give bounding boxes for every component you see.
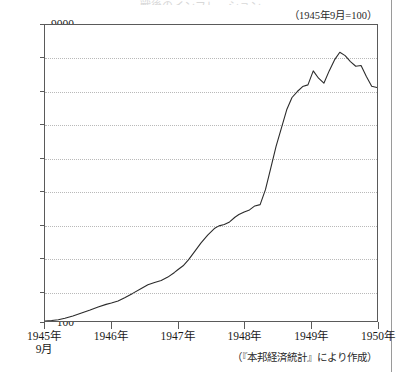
- x-axis-tick-label: 1946年: [76, 330, 146, 343]
- x-axis-tick-label: 1948年: [209, 330, 279, 343]
- x-axis-tick-label-year: 1949年: [294, 330, 328, 342]
- source-note: （『本邦経済統計』により作成）: [232, 351, 377, 364]
- x-axis-tick-label: 1947年: [143, 330, 213, 343]
- unit-base-note: （1945年9月=100）: [289, 9, 377, 22]
- x-axis-tick: [378, 322, 379, 329]
- x-axis-tick-label-year: 1947年: [161, 330, 195, 342]
- x-axis-tick-label-year: 1946年: [94, 330, 128, 342]
- plot-area: [44, 24, 378, 322]
- x-axis-tick-label: 1949年: [276, 330, 346, 343]
- x-axis-tick: [111, 322, 112, 329]
- x-axis-tick-label-year: 1948年: [227, 330, 261, 342]
- x-axis-tick: [311, 322, 312, 329]
- x-axis-tick-label-year: 1945年: [27, 330, 61, 342]
- x-axis-tick-label: 1945年9月: [9, 330, 79, 356]
- x-axis-tick-label: 1950年: [343, 330, 401, 343]
- chart-page: 戦後のインフレーション （1945年9月=100） 10010002000300…: [0, 0, 401, 372]
- x-axis-tick-label-year: 1950年: [361, 330, 395, 342]
- x-axis-tick: [178, 322, 179, 329]
- series-line-物価指数: [45, 52, 377, 321]
- x-axis-tick: [244, 322, 245, 329]
- chart-title-sliver: 戦後のインフレーション: [0, 0, 401, 5]
- chart-svg: [45, 25, 377, 321]
- x-axis-tick: [44, 322, 45, 329]
- x-axis-tick-label-month: 9月: [9, 343, 79, 356]
- page-border-rule: [391, 0, 392, 372]
